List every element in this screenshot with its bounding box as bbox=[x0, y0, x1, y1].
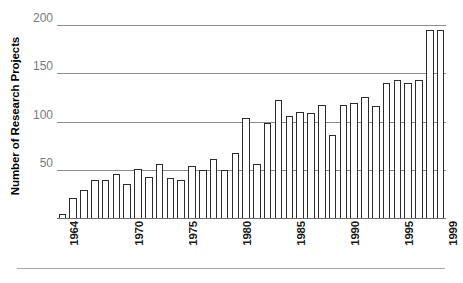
bar bbox=[253, 164, 261, 219]
bar bbox=[123, 184, 131, 219]
bar bbox=[80, 190, 88, 219]
y-tick-label: 200 bbox=[33, 11, 53, 25]
y-tick-label: 100 bbox=[33, 108, 53, 122]
bar-series bbox=[57, 20, 446, 219]
bar bbox=[210, 159, 218, 219]
bar bbox=[329, 135, 337, 219]
bar bbox=[91, 180, 99, 219]
bar bbox=[296, 112, 304, 219]
y-axis-title: Number of Research Projects bbox=[0, 0, 30, 232]
bar bbox=[167, 178, 175, 219]
bar bbox=[350, 103, 358, 219]
bar bbox=[383, 83, 391, 219]
bar bbox=[102, 180, 110, 219]
bar bbox=[113, 174, 121, 219]
x-tick-label: 1995 bbox=[403, 221, 415, 267]
bar bbox=[415, 80, 423, 219]
bar bbox=[177, 180, 185, 219]
x-tick-label: 1990 bbox=[349, 221, 361, 267]
x-tick-label: 1999 bbox=[447, 221, 459, 267]
bar bbox=[275, 100, 283, 219]
bar-chart-figure: Number of Research Projects 50100150200 … bbox=[0, 0, 463, 283]
x-tick-label: 1980 bbox=[241, 221, 253, 267]
bar bbox=[221, 170, 229, 219]
bottom-divider-rule bbox=[17, 268, 445, 269]
bar bbox=[361, 97, 369, 219]
bar bbox=[340, 105, 348, 219]
bar bbox=[372, 106, 380, 219]
bar bbox=[286, 116, 294, 219]
bar bbox=[199, 170, 207, 219]
bar bbox=[188, 166, 196, 219]
bar bbox=[69, 198, 77, 219]
bar bbox=[242, 118, 250, 219]
x-axis-tick-labels: 19641970197519801985199019951999 bbox=[57, 219, 446, 265]
bar bbox=[307, 113, 315, 219]
y-tick-label: 150 bbox=[33, 59, 53, 73]
bar bbox=[437, 30, 445, 219]
x-tick-label: 1964 bbox=[68, 221, 80, 267]
x-tick-label: 1985 bbox=[295, 221, 307, 267]
plot-area: 50100150200 bbox=[57, 20, 446, 219]
bar bbox=[134, 169, 142, 219]
bar bbox=[145, 177, 153, 219]
bar bbox=[426, 30, 434, 219]
bar bbox=[264, 123, 272, 219]
x-tick-label: 1975 bbox=[187, 221, 199, 267]
bar bbox=[156, 164, 164, 219]
bar bbox=[232, 153, 240, 219]
bar bbox=[318, 105, 326, 219]
bar bbox=[404, 83, 412, 219]
x-tick-label: 1970 bbox=[133, 221, 145, 267]
bar bbox=[394, 80, 402, 219]
y-tick-label: 50 bbox=[40, 156, 53, 170]
